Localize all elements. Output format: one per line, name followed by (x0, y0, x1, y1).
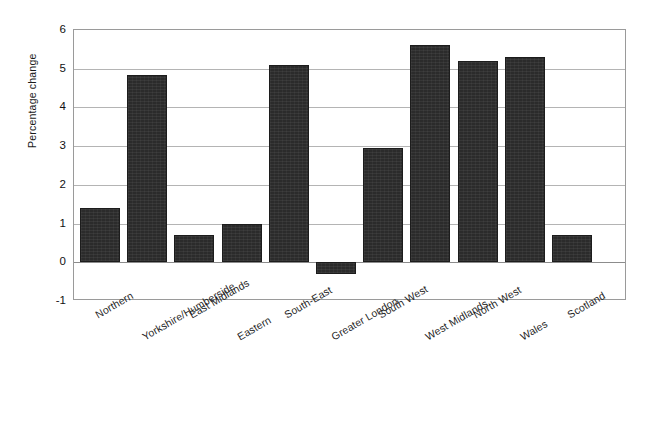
bar (505, 57, 545, 262)
y-tick-4: 4 (6, 100, 66, 112)
bar (363, 148, 403, 262)
bar (552, 235, 592, 262)
bar (80, 208, 120, 262)
bar-chart-figure: Percentage change 6 5 4 3 2 1 0 -1 North… (0, 0, 661, 447)
bar (410, 45, 450, 262)
y-tick-6: 6 (6, 23, 66, 35)
y-tick-1: 1 (6, 217, 66, 229)
bar (316, 262, 356, 274)
bar (174, 235, 214, 262)
x-axis-label: Wales (518, 317, 549, 342)
plot-area (73, 29, 626, 300)
bar (127, 75, 167, 263)
bar (458, 61, 498, 262)
bars-group (74, 30, 625, 299)
y-axis-tick-labels: 6 5 4 3 2 1 0 -1 (0, 29, 66, 300)
x-axis-category-labels: NorthernYorkshire/HumbersideEast Midland… (0, 300, 661, 447)
bar (222, 224, 262, 263)
y-tick-5: 5 (6, 62, 66, 74)
y-tick-3: 3 (6, 139, 66, 151)
bar (269, 65, 309, 262)
y-tick-0: 0 (6, 255, 66, 267)
x-axis-label: Eastern (235, 314, 273, 343)
y-tick-2: 2 (6, 178, 66, 190)
